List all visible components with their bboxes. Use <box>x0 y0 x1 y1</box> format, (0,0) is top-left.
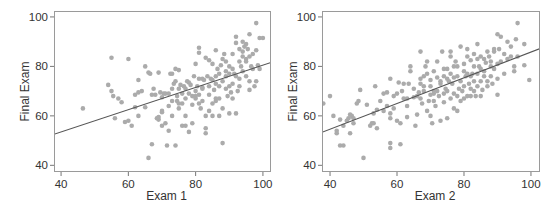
data-point <box>490 81 495 86</box>
data-point <box>495 77 500 82</box>
data-point <box>482 74 487 79</box>
data-point <box>472 64 477 69</box>
data-point <box>509 54 514 59</box>
data-point <box>438 119 443 124</box>
data-point <box>170 72 175 77</box>
data-point <box>230 96 235 101</box>
data-point <box>197 93 202 98</box>
data-point <box>207 109 212 114</box>
data-point <box>203 131 208 136</box>
data-point <box>420 101 425 106</box>
x-tick-label: 80 <box>189 178 202 190</box>
regression-line <box>54 62 271 134</box>
data-point <box>499 34 504 39</box>
data-point <box>485 49 490 54</box>
y-axis-label: Final Exam <box>18 61 32 121</box>
data-point <box>371 121 376 126</box>
data-point <box>203 114 208 119</box>
data-point <box>388 77 393 82</box>
data-point <box>165 143 170 148</box>
data-point <box>455 109 460 114</box>
data-point <box>150 142 155 147</box>
data-point <box>220 106 225 111</box>
y-tick-label: 100 <box>29 11 48 23</box>
data-point <box>396 80 401 85</box>
data-point <box>430 121 435 126</box>
data-point <box>192 74 197 79</box>
data-point <box>207 93 212 98</box>
data-points <box>321 21 532 160</box>
data-point <box>460 89 465 94</box>
data-point <box>351 121 356 126</box>
x-tick-label: 60 <box>122 178 135 190</box>
data-point <box>484 60 489 65</box>
data-point <box>435 59 440 64</box>
data-point <box>468 58 473 63</box>
data-point <box>180 101 185 106</box>
data-point <box>425 109 430 114</box>
data-point <box>187 130 192 135</box>
x-tick-label: 100 <box>253 178 272 190</box>
data-point <box>237 84 242 89</box>
data-point <box>148 72 153 77</box>
data-point <box>140 89 145 94</box>
data-point <box>177 68 182 73</box>
data-point <box>373 84 378 89</box>
data-point <box>210 114 215 119</box>
data-point <box>388 116 393 121</box>
data-point <box>173 143 178 148</box>
data-point <box>448 72 453 77</box>
data-point <box>225 94 230 99</box>
data-point <box>480 88 485 93</box>
data-point <box>193 62 198 67</box>
data-point <box>334 128 339 133</box>
data-point <box>435 75 440 80</box>
data-point <box>418 49 423 54</box>
data-point <box>203 126 208 131</box>
data-point <box>445 116 450 121</box>
x-tick-label: 60 <box>391 178 404 190</box>
data-point <box>193 89 198 94</box>
data-point <box>234 34 239 39</box>
data-point <box>514 37 519 42</box>
data-point <box>361 156 366 161</box>
data-point <box>413 124 418 129</box>
data-point <box>455 64 460 69</box>
data-point <box>425 59 430 64</box>
data-point <box>109 89 114 94</box>
data-point <box>230 81 235 86</box>
data-point <box>485 84 490 89</box>
data-point <box>246 47 251 52</box>
data-point <box>190 121 195 126</box>
x-tick-label: 40 <box>324 178 337 190</box>
y-axis-label: Final Exam <box>286 61 300 121</box>
x-axis-label: Exam 2 <box>415 189 456 203</box>
data-point <box>391 106 396 111</box>
data-point <box>251 52 256 57</box>
data-point <box>129 124 134 129</box>
y-tick-label: 100 <box>297 11 316 23</box>
data-point <box>401 81 406 86</box>
plot-2: 406080100406080100Exam 2Final Exam <box>286 11 541 203</box>
data-point <box>230 67 235 72</box>
data-point <box>321 101 326 106</box>
data-point <box>254 48 259 53</box>
data-point <box>227 111 232 116</box>
data-point <box>210 62 215 67</box>
data-point <box>261 36 266 41</box>
data-point <box>229 90 234 95</box>
data-point <box>328 94 333 99</box>
data-point <box>412 86 417 91</box>
data-point <box>170 99 175 104</box>
data-point <box>467 81 472 86</box>
data-point <box>445 67 450 72</box>
data-point <box>522 42 527 47</box>
data-point <box>202 78 207 83</box>
data-point <box>163 121 168 126</box>
data-point <box>435 89 440 94</box>
data-point <box>472 52 477 57</box>
data-point <box>395 91 400 96</box>
data-point <box>437 94 442 99</box>
data-point <box>388 141 393 146</box>
data-point <box>458 44 463 49</box>
